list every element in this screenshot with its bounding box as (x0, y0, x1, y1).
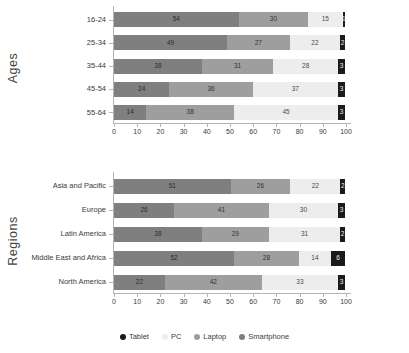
bar-value-label: 37 (292, 86, 299, 93)
bar-segment-smartphone: 38 (114, 59, 202, 74)
x-tick-label: 40 (203, 298, 211, 305)
category-tick (109, 234, 113, 235)
bar-row: Latin America3829312 (113, 227, 345, 242)
bar-row: 16-245430151 (113, 12, 345, 27)
legend-item-tablet[interactable]: Tablet (120, 332, 149, 341)
x-tick-label: 60 (249, 128, 257, 135)
bar-value-label: 15 (322, 16, 329, 23)
ages-axis-title: Ages (6, 8, 20, 128)
legend-item-pc[interactable]: PC (162, 332, 181, 341)
category-tick (109, 43, 113, 44)
x-tick-label: 80 (296, 298, 304, 305)
bar-segment-pc: 14 (299, 251, 331, 266)
bar-value-label: 1 (343, 16, 345, 23)
x-tick-mark (276, 294, 277, 297)
x-tick-mark (184, 294, 185, 297)
bar-segment-pc: 31 (269, 227, 341, 242)
x-tick-mark (184, 124, 185, 127)
bar-segment-tablet: 3 (338, 82, 345, 97)
bar-row: Europe2641303 (113, 203, 345, 218)
legend-swatch-tablet-icon (120, 334, 126, 340)
bar-row: 45-542436373 (113, 82, 345, 97)
stacked-bar: 2436373 (114, 82, 345, 97)
bar-segment-pc: 22 (290, 35, 341, 50)
x-tick-mark (114, 124, 115, 127)
bar-segment-tablet: 3 (338, 105, 345, 120)
bar-segment-laptop: 41 (174, 203, 269, 218)
bar-value-label: 29 (232, 231, 239, 238)
category-label: Asia and Pacific (53, 182, 106, 190)
bar-value-label: 49 (167, 40, 174, 47)
legend-item-laptop[interactable]: Laptop (194, 332, 226, 341)
bar-value-label: 3 (340, 63, 344, 70)
legend-swatch-laptop-icon (194, 334, 200, 340)
bar-segment-smartphone: 24 (114, 82, 169, 97)
bar-segment-tablet: 2 (340, 35, 345, 50)
bar-segment-laptop: 36 (169, 82, 252, 97)
bar-value-label: 42 (210, 279, 217, 286)
x-tick-mark (346, 124, 347, 127)
legend-item-smartphone[interactable]: Smartphone (239, 332, 289, 341)
x-tick-mark (300, 124, 301, 127)
x-tick-label: 40 (203, 128, 211, 135)
bar-value-label: 28 (263, 255, 270, 262)
bar-row: Asia and Pacific5126222 (113, 179, 345, 194)
chart-legend: TabletPCLaptopSmartphone (0, 332, 409, 341)
bar-value-label: 41 (218, 207, 225, 214)
bar-value-label: 3 (340, 86, 344, 93)
bar-segment-smartphone: 26 (114, 203, 174, 218)
bar-value-label: 26 (140, 207, 147, 214)
x-tick-label: 20 (156, 298, 164, 305)
regions-x-tick-labels: 0102030405060708090100 (113, 294, 351, 308)
legend-label: Laptop (203, 332, 226, 341)
x-tick-label: 70 (272, 128, 280, 135)
category-label: 55-64 (87, 109, 106, 117)
regions-plot-area: Asia and Pacific5126222Europe2641303Lati… (113, 172, 345, 294)
bar-segment-laptop: 29 (202, 227, 269, 242)
bar-segment-tablet: 3 (338, 59, 345, 74)
category-label: 25-34 (87, 39, 106, 47)
x-tick-label: 30 (180, 128, 188, 135)
bar-value-label: 22 (136, 279, 143, 286)
bar-value-label: 22 (312, 183, 319, 190)
x-tick-label: 100 (340, 128, 352, 135)
bar-segment-tablet: 3 (338, 275, 345, 290)
stacked-bar: 5126222 (114, 179, 345, 194)
x-tick-label: 80 (296, 128, 304, 135)
category-label: Latin America (61, 230, 106, 238)
bar-segment-laptop: 30 (239, 12, 308, 27)
x-tick-mark (276, 124, 277, 127)
x-tick-mark (114, 294, 115, 297)
ages-x-tick-labels: 0102030405060708090100 (113, 124, 351, 138)
x-tick-mark (160, 124, 161, 127)
bar-value-label: 52 (170, 255, 177, 262)
bar-segment-tablet: 3 (338, 203, 345, 218)
bar-value-label: 33 (296, 279, 303, 286)
bar-segment-tablet: 2 (340, 227, 345, 242)
bar-value-label: 27 (255, 40, 262, 47)
bar-segment-smartphone: 52 (114, 251, 234, 266)
stacked-bar: 1438453 (114, 105, 345, 120)
category-label: 35-44 (87, 62, 106, 70)
legend-label: Tablet (129, 332, 149, 341)
x-tick-label: 90 (319, 298, 327, 305)
bar-value-label: 14 (311, 255, 318, 262)
bar-segment-laptop: 31 (202, 59, 274, 74)
x-tick-mark (160, 294, 161, 297)
bar-value-label: 14 (127, 109, 134, 116)
bar-segment-pc: 28 (273, 59, 338, 74)
x-tick-mark (323, 294, 324, 297)
category-label: Middle East and Africa (31, 254, 106, 262)
bar-segment-tablet: 1 (343, 12, 345, 27)
x-tick-mark (253, 294, 254, 297)
x-tick-mark (207, 124, 208, 127)
bar-segment-tablet: 2 (340, 179, 345, 194)
x-tick-label: 60 (249, 298, 257, 305)
x-tick-label: 30 (180, 298, 188, 305)
bar-value-label: 31 (301, 231, 308, 238)
bar-segment-smartphone: 38 (114, 227, 202, 242)
x-tick-label: 20 (156, 128, 164, 135)
bar-value-label: 38 (154, 231, 161, 238)
x-tick-mark (137, 124, 138, 127)
bar-row: 35-443831283 (113, 59, 345, 74)
